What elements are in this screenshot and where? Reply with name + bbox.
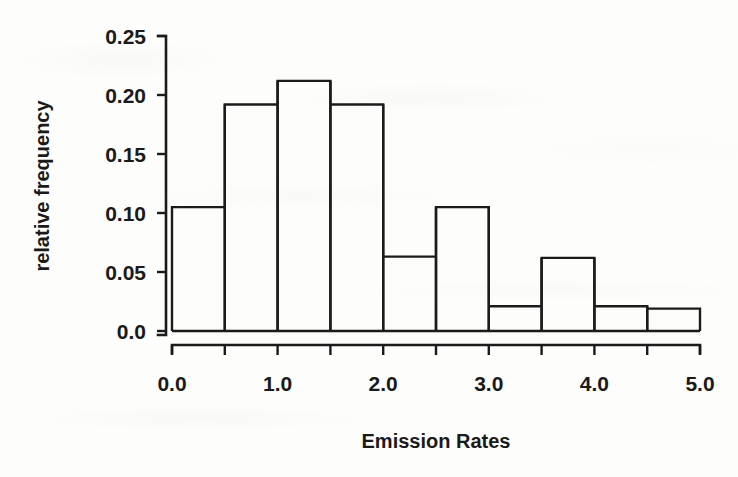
y-tick-label: 0.10	[105, 202, 146, 225]
y-axis-tick-labels: 0.00.050.100.150.200.25	[105, 25, 146, 343]
y-tick-label: 0.0	[117, 320, 146, 343]
histogram-bars	[172, 81, 700, 331]
x-axis-ticks	[172, 345, 700, 355]
x-axis: 0.01.02.03.04.05.0	[157, 345, 714, 395]
y-tick-label: 0.20	[105, 84, 146, 107]
y-axis-ticks	[157, 36, 166, 331]
x-tick-label: 5.0	[685, 372, 714, 395]
x-tick-label: 1.0	[263, 372, 292, 395]
x-axis-title: Emission Rates	[362, 430, 511, 452]
plot-canvas: 0.00.050.100.150.200.25 relative frequen…	[0, 0, 738, 477]
histogram-figure: 0.00.050.100.150.200.25 relative frequen…	[0, 0, 738, 477]
y-axis-title: relative frequency	[31, 100, 53, 272]
x-axis-tick-labels: 0.01.02.03.04.05.0	[157, 372, 714, 395]
x-tick-label: 0.0	[157, 372, 186, 395]
y-axis: 0.00.050.100.150.200.25	[105, 25, 166, 343]
x-tick-label: 4.0	[580, 372, 609, 395]
y-tick-label: 0.15	[105, 143, 146, 166]
y-axis-line	[158, 36, 166, 335]
y-tick-label: 0.05	[105, 261, 146, 284]
y-tick-label: 0.25	[105, 25, 146, 48]
x-tick-label: 3.0	[474, 372, 503, 395]
x-tick-label: 2.0	[369, 372, 398, 395]
